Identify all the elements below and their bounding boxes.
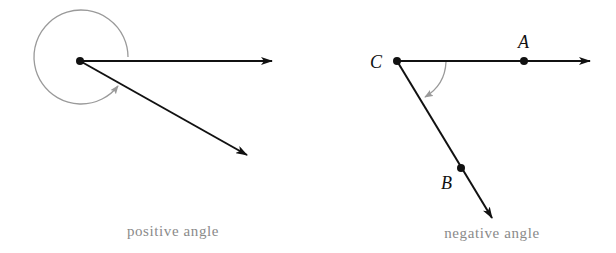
positive-angle-diagram: positive angle: [34, 10, 272, 239]
negative-angle-caption: negative angle: [444, 225, 539, 241]
label-b: B: [441, 173, 452, 193]
rotation-arc-cw: [425, 62, 446, 97]
rotation-arc-ccw: [34, 10, 128, 104]
angle-diagrams: positive angle C A B negative angle: [0, 0, 616, 253]
label-a: A: [517, 32, 530, 52]
positive-angle-caption: positive angle: [127, 223, 219, 239]
vertex-c-point: [393, 57, 401, 65]
label-c: C: [370, 52, 383, 72]
vertex-point: [76, 57, 84, 65]
point-a: [520, 57, 528, 65]
negative-angle-diagram: C A B negative angle: [370, 32, 590, 241]
point-b: [457, 164, 465, 172]
terminal-ray: [80, 61, 247, 155]
ray-cb: [397, 61, 492, 218]
